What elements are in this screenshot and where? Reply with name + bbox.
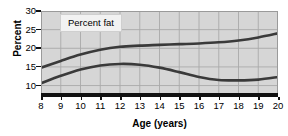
x-tick-mark bbox=[81, 97, 83, 100]
x-tick-label: 19 bbox=[247, 100, 269, 111]
x-tick-mark bbox=[160, 97, 162, 100]
x-tick-mark bbox=[41, 97, 43, 100]
y-axis-tick-labels: 1015202530 bbox=[12, 0, 36, 136]
y-tick-label: 10 bbox=[16, 81, 36, 91]
x-tick-label: 11 bbox=[89, 100, 111, 111]
data-line-lower-curve bbox=[41, 64, 278, 83]
y-tick-label: 15 bbox=[16, 62, 36, 72]
data-line-upper-curve bbox=[41, 33, 278, 67]
x-tick-label: 15 bbox=[168, 100, 190, 111]
x-tick-mark bbox=[219, 97, 221, 100]
x-tick-label: 20 bbox=[267, 100, 288, 111]
y-tick-label: 25 bbox=[16, 25, 36, 35]
x-tick-mark bbox=[179, 97, 181, 100]
x-tick-mark bbox=[100, 97, 102, 100]
x-tick-mark bbox=[278, 97, 280, 100]
x-tick-label: 9 bbox=[50, 100, 72, 111]
y-tick-label: 30 bbox=[16, 6, 36, 16]
y-tick-mark bbox=[36, 85, 41, 87]
y-tick-mark bbox=[36, 66, 41, 68]
x-tick-mark bbox=[239, 97, 241, 100]
x-tick-label: 10 bbox=[70, 100, 92, 111]
x-tick-mark bbox=[61, 97, 63, 100]
y-tick-mark bbox=[36, 47, 41, 49]
x-tick-label: 14 bbox=[149, 100, 171, 111]
x-tick-label: 13 bbox=[129, 100, 151, 111]
x-tick-label: 12 bbox=[109, 100, 131, 111]
x-tick-mark bbox=[199, 97, 201, 100]
x-axis-title: Age (years) bbox=[41, 118, 278, 129]
x-tick-mark bbox=[258, 97, 260, 100]
x-tick-mark bbox=[120, 97, 122, 100]
chart-figure: Percent 1015202530 Age (years) Percent f… bbox=[0, 0, 288, 136]
x-tick-label: 18 bbox=[228, 100, 250, 111]
y-tick-mark bbox=[36, 29, 41, 31]
x-tick-label: 8 bbox=[30, 100, 52, 111]
x-tick-mark bbox=[140, 97, 142, 100]
y-tick-mark bbox=[36, 10, 41, 12]
x-tick-label: 16 bbox=[188, 100, 210, 111]
x-tick-label: 17 bbox=[208, 100, 230, 111]
y-tick-label: 20 bbox=[16, 43, 36, 53]
legend-percent-fat: Percent fat bbox=[60, 14, 122, 32]
